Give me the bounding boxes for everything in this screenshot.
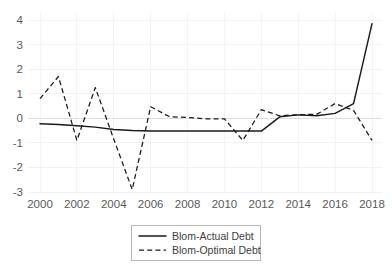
x-axis-tick-labels: 2000200220042006200820102012201420162018 xyxy=(27,198,385,210)
series-group xyxy=(40,24,372,190)
y-tick-label: -3 xyxy=(13,186,23,198)
x-tick-label: 2018 xyxy=(359,198,385,210)
x-tick-label: 2002 xyxy=(64,198,90,210)
y-tick-label: 1 xyxy=(17,88,23,100)
chart-canvas: 43210-1-2-3 2000200220042006200820102012… xyxy=(0,0,392,273)
legend-label-optimal: Blom-Optimal Debt xyxy=(172,244,261,256)
legend-label-actual: Blom-Actual Debt xyxy=(172,230,254,242)
x-tick-label: 2014 xyxy=(285,198,311,210)
x-tick-label: 2010 xyxy=(212,198,238,210)
x-tick-label: 2000 xyxy=(27,198,53,210)
x-tick-label: 2008 xyxy=(175,198,201,210)
y-tick-label: 4 xyxy=(17,14,24,26)
gridlines-group xyxy=(28,12,382,192)
y-tick-label: -2 xyxy=(13,161,23,173)
y-tick-label: 2 xyxy=(17,63,23,75)
y-tick-label: 3 xyxy=(17,39,23,51)
series-line-solid xyxy=(40,24,372,131)
y-axis-tick-labels: 43210-1-2-3 xyxy=(13,14,24,198)
x-tick-label: 2004 xyxy=(101,198,127,210)
chart-legend: Blom-Actual Debt Blom-Optimal Debt xyxy=(132,226,261,261)
y-tick-label: 0 xyxy=(17,112,23,124)
x-tick-label: 2006 xyxy=(138,198,164,210)
x-tick-label: 2016 xyxy=(322,198,348,210)
line-chart: 43210-1-2-3 2000200220042006200820102012… xyxy=(0,0,392,273)
x-tick-label: 2012 xyxy=(249,198,275,210)
y-tick-label: -1 xyxy=(13,137,23,149)
